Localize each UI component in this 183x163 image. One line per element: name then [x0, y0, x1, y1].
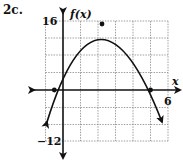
x-axis-label: x	[171, 75, 179, 88]
x-intercept-right	[148, 88, 153, 93]
x-intercept-left	[52, 88, 57, 93]
y-axis-label: f(x)	[69, 8, 92, 21]
function-graph: f(x) 16 −12 x 6	[0, 0, 183, 163]
vertex-point	[100, 22, 105, 27]
y-max-label: 16	[42, 15, 58, 28]
x-max-label: 6	[164, 95, 172, 108]
parabola-curve	[47, 40, 162, 123]
grid	[46, 21, 169, 141]
y-min-label: −12	[37, 135, 62, 148]
